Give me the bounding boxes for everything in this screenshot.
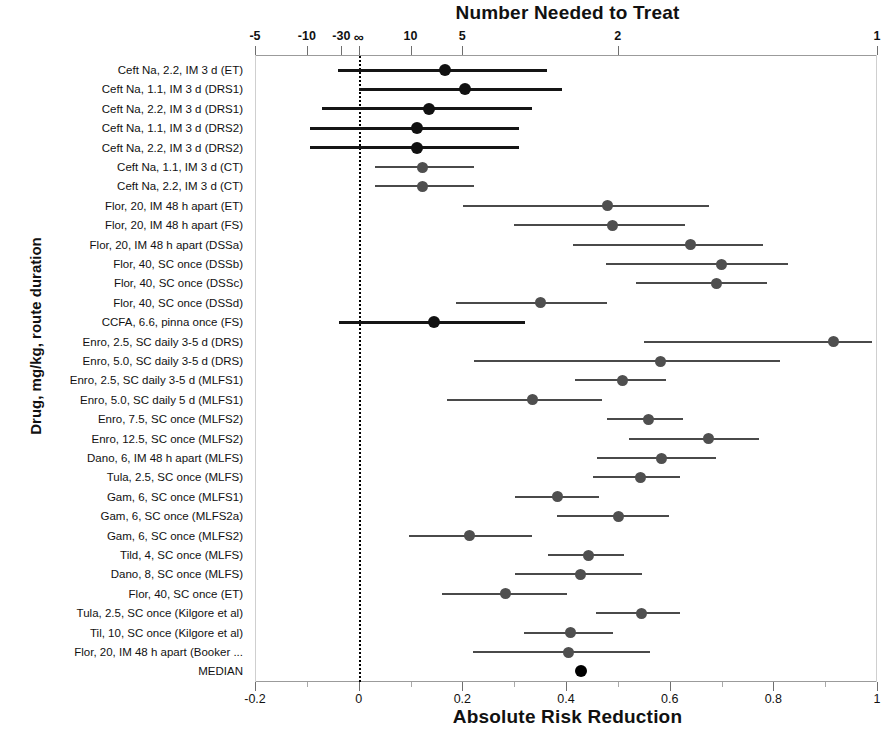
estimate-marker[interactable] [828, 336, 839, 347]
forest-row[interactable]: Tula, 2.5, SC once (Kilgore et al) [0, 603, 885, 623]
confidence-interval-line [573, 244, 764, 246]
estimate-marker[interactable] [656, 453, 667, 464]
row-label: Flor, 40, SC once (ET) [0, 584, 248, 604]
estimate-marker[interactable] [527, 394, 538, 405]
estimate-marker[interactable] [417, 181, 428, 192]
forest-row[interactable]: Ceft Na, 1.1, IM 3 d (DRS2) [0, 118, 885, 138]
estimate-marker[interactable] [417, 162, 428, 173]
forest-row[interactable]: Tula, 2.5, SC once (MLFS) [0, 467, 885, 487]
estimate-marker[interactable] [617, 375, 628, 386]
estimate-marker[interactable] [552, 491, 563, 502]
forest-row[interactable]: Ceft Na, 1.1, IM 3 d (CT) [0, 157, 885, 177]
top-tick-0 [255, 46, 256, 55]
forest-row[interactable]: Enro, 12.5, SC once (MLFS2) [0, 429, 885, 449]
estimate-marker[interactable] [439, 64, 451, 76]
estimate-marker[interactable] [613, 511, 624, 522]
row-label: Ceft Na, 2.2, IM 3 d (DRS1) [0, 99, 248, 119]
bottom-tick-label-1: 0 [329, 692, 389, 706]
confidence-interval-line [473, 651, 650, 653]
forest-row[interactable]: Ceft Na, 2.2, IM 3 d (DRS1) [0, 99, 885, 119]
bottom-tick-0 [255, 682, 256, 691]
bottom-tick-label-3: 0.4 [536, 692, 596, 706]
forest-row[interactable]: Enro, 2.5, SC daily 3-5 d (MLFS1) [0, 370, 885, 390]
bottom-tick-label-6: 1 [847, 692, 885, 706]
estimate-marker[interactable] [464, 530, 475, 541]
estimate-marker[interactable] [428, 316, 440, 328]
estimate-marker[interactable] [563, 647, 574, 658]
estimate-marker[interactable] [535, 297, 546, 308]
estimate-marker[interactable] [459, 83, 471, 95]
confidence-interval-line [636, 282, 766, 284]
top-tick-label-6: 2 [588, 29, 648, 43]
bottom-tick-label-4: 0.6 [640, 692, 700, 706]
forest-row[interactable]: Flor, 20, IM 48 h apart (DSSa) [0, 235, 885, 255]
row-label: Ceft Na, 1.1, IM 3 d (CT) [0, 157, 248, 177]
estimate-marker[interactable] [602, 200, 613, 211]
row-label: CCFA, 6.6, pinna once (FS) [0, 312, 248, 332]
forest-row[interactable]: Tild, 4, SC once (MLFS) [0, 545, 885, 565]
forest-row[interactable]: Gam, 6, SC once (MLFS2a) [0, 506, 885, 526]
forest-row[interactable]: Ceft Na, 2.2, IM 3 d (CT) [0, 176, 885, 196]
row-label: Tula, 2.5, SC once (Kilgore et al) [0, 603, 248, 623]
estimate-marker[interactable] [716, 259, 727, 270]
estimate-marker[interactable] [565, 627, 576, 638]
estimate-marker[interactable] [685, 239, 696, 250]
row-label: Flor, 40, SC once (DSSd) [0, 293, 248, 313]
forest-row[interactable]: Flor, 40, SC once (DSSb) [0, 254, 885, 274]
forest-row[interactable]: Ceft Na, 1.1, IM 3 d (DRS1) [0, 79, 885, 99]
confidence-interval-line [456, 302, 607, 304]
row-label: Flor, 40, SC once (DSSc) [0, 273, 248, 293]
row-label: Dano, 8, SC once (MLFS) [0, 564, 248, 584]
estimate-marker[interactable] [655, 356, 666, 367]
row-label: Ceft Na, 2.2, IM 3 d (DRS2) [0, 138, 248, 158]
bottom-tick-3 [566, 682, 567, 691]
forest-row[interactable]: Gam, 6, SC once (MLFS2) [0, 526, 885, 546]
forest-row[interactable]: Enro, 7.5, SC once (MLFS2) [0, 409, 885, 429]
top-tick-3 [359, 46, 360, 55]
estimate-marker[interactable] [711, 278, 722, 289]
bottom-tick-1 [359, 682, 360, 691]
forest-row[interactable]: Enro, 5.0, SC daily 3-5 d (DRS) [0, 351, 885, 371]
forest-row[interactable]: CCFA, 6.6, pinna once (FS) [0, 312, 885, 332]
row-label: Gam, 6, SC once (MLFS1) [0, 487, 248, 507]
forest-row[interactable]: Gam, 6, SC once (MLFS1) [0, 487, 885, 507]
forest-row[interactable]: Flor, 40, SC once (ET) [0, 584, 885, 604]
row-label: Ceft Na, 1.1, IM 3 d (DRS1) [0, 79, 248, 99]
estimate-marker[interactable] [500, 588, 511, 599]
forest-row[interactable]: Flor, 20, IM 48 h apart (Booker ... [0, 642, 885, 662]
estimate-marker[interactable] [636, 608, 647, 619]
forest-row[interactable]: MEDIAN [0, 661, 885, 681]
estimate-marker[interactable] [703, 433, 714, 444]
row-label: Enro, 2.5, SC daily 3-5 d (MLFS1) [0, 370, 248, 390]
bottom-tick-label-2: 0.2 [432, 692, 492, 706]
estimate-marker[interactable] [583, 550, 594, 561]
bottom-minor-tick-5 [825, 682, 826, 687]
forest-row[interactable]: Enro, 2.5, SC daily 3-5 d (DRS) [0, 332, 885, 352]
estimate-marker[interactable] [411, 122, 423, 134]
forest-row[interactable]: Enro, 5.0, SC daily 5 d (MLFS1) [0, 390, 885, 410]
median-marker[interactable] [575, 665, 587, 677]
bottom-tick-4 [670, 682, 671, 691]
figure-caption-fragment [8, 726, 878, 744]
estimate-marker[interactable] [643, 414, 654, 425]
estimate-marker[interactable] [607, 220, 618, 231]
estimate-marker[interactable] [635, 472, 646, 483]
forest-row[interactable]: Ceft Na, 2.2, IM 3 d (ET) [0, 60, 885, 80]
estimate-marker[interactable] [411, 142, 423, 154]
forest-row[interactable]: Til, 10, SC once (Kilgore et al) [0, 623, 885, 643]
row-label: Enro, 7.5, SC once (MLFS2) [0, 409, 248, 429]
forest-row[interactable]: Ceft Na, 2.2, IM 3 d (DRS2) [0, 138, 885, 158]
bottom-minor-tick-0 [307, 682, 308, 687]
forest-row[interactable]: Flor, 20, IM 48 h apart (ET) [0, 196, 885, 216]
top-tick-6 [618, 46, 619, 55]
estimate-marker[interactable] [423, 103, 435, 115]
row-label: MEDIAN [0, 661, 248, 681]
estimate-marker[interactable] [575, 569, 586, 580]
forest-row[interactable]: Dano, 8, SC once (MLFS) [0, 564, 885, 584]
forest-row[interactable]: Flor, 40, SC once (DSSc) [0, 273, 885, 293]
forest-row[interactable]: Flor, 20, IM 48 h apart (FS) [0, 215, 885, 235]
forest-row[interactable]: Dano, 6, IM 48 h apart (MLFS) [0, 448, 885, 468]
top-tick-5 [462, 46, 463, 55]
forest-row[interactable]: Flor, 40, SC once (DSSd) [0, 293, 885, 313]
bottom-minor-tick-2 [514, 682, 515, 687]
